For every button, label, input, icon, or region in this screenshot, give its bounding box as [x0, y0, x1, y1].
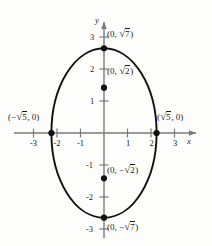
radical-group: √7 [119, 29, 130, 39]
radical-argument: 5 [22, 111, 28, 122]
label-point-upper-focus: (0, √2) [107, 66, 133, 76]
radical-argument: 2 [130, 164, 136, 175]
label-point-left-vertex: (−√5, 0) [8, 112, 39, 122]
radical-group: √2 [119, 66, 130, 76]
radical-group: √2 [124, 165, 135, 175]
point-upper-focus [101, 85, 107, 91]
radical-group: √5 [16, 112, 27, 122]
y-tick-label-neg3: -3 [86, 225, 93, 234]
x-tick-label-pos2: 2 [150, 139, 154, 148]
radical-argument: 7 [130, 221, 136, 232]
label-point-lower-focus: (0, −√2) [107, 165, 138, 175]
label-open: (0, − [107, 222, 124, 232]
x-tick-label-neg3: -3 [30, 139, 37, 148]
label-close: ) [130, 66, 133, 76]
point-right-vertex [154, 130, 160, 136]
label-point-right-vertex: (√5, 0) [157, 112, 183, 122]
x-tick-label-neg2: -2 [54, 139, 61, 148]
label-point-top-vertex: (0, √7) [107, 29, 133, 39]
label-close: ) [135, 222, 138, 232]
radical-argument: 7 [125, 28, 131, 39]
label-open: (− [8, 112, 16, 122]
label-open: (0, [107, 29, 119, 39]
label-point-bottom-vertex: (0, −√7) [107, 222, 138, 232]
y-axis [100, 22, 109, 238]
radical-argument: 5 [166, 111, 172, 122]
x-axis-label: x [187, 137, 191, 146]
label-close: , 0) [27, 112, 39, 122]
point-top-vertex [101, 45, 107, 51]
y-tick-label-neg1: -1 [86, 161, 93, 170]
x-tick-label-pos1: 1 [126, 139, 130, 148]
coordinate-plot [0, 0, 212, 246]
point-left-vertex [48, 130, 54, 136]
point-bottom-vertex [101, 215, 107, 221]
y-tick-label-neg2: -2 [86, 193, 93, 202]
y-tick-label-pos3: 3 [90, 33, 94, 42]
ellipse-graph-figure: -3 -2 -1 1 2 3 3 2 1 -1 -2 -3 x y (0, √7… [0, 0, 212, 246]
radical-argument: 2 [125, 65, 131, 76]
x-tick-label-neg1: -1 [77, 139, 84, 148]
label-close: , 0) [171, 112, 183, 122]
label-close: ) [130, 29, 133, 39]
point-lower-focus [101, 175, 107, 181]
y-tick-label-pos2: 2 [90, 65, 94, 74]
radical-group: √7 [124, 222, 135, 232]
y-tick-label-pos1: 1 [90, 97, 94, 106]
label-close: ) [135, 165, 138, 175]
x-tick-label-pos3: 3 [173, 139, 177, 148]
y-axis-label: y [95, 16, 99, 25]
x-axis [14, 129, 196, 138]
radical-group: √5 [160, 112, 171, 122]
label-open: (0, − [107, 165, 124, 175]
label-open: (0, [107, 66, 119, 76]
